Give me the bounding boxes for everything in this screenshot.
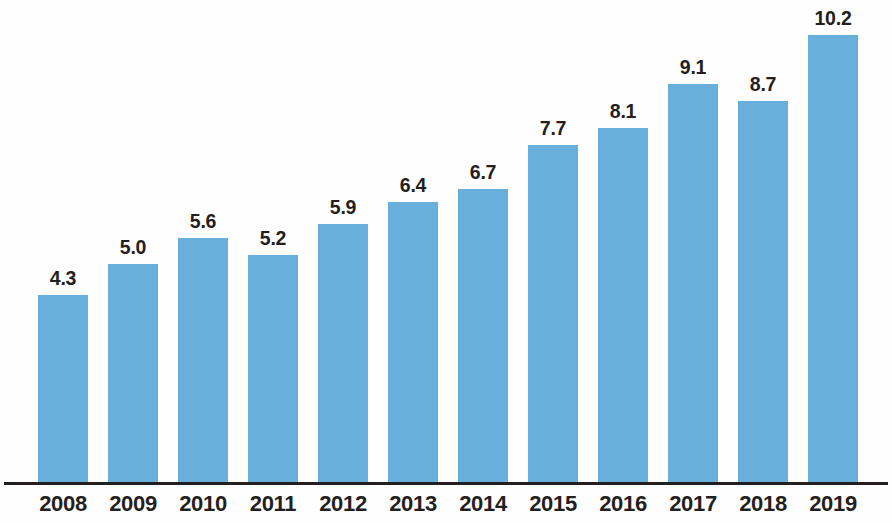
bar[interactable] (598, 128, 648, 484)
bar[interactable] (248, 255, 298, 484)
bar[interactable] (108, 264, 158, 484)
category-label: 2012 (308, 487, 378, 521)
bar-group[interactable]: 5.2 (248, 0, 298, 484)
category-label: 2017 (658, 487, 728, 521)
category-label: 2018 (728, 487, 798, 521)
bar-value-label: 6.7 (470, 163, 497, 183)
bar[interactable] (388, 202, 438, 484)
bar-chart: 4.35.05.65.25.96.46.77.78.19.18.710.2 20… (0, 0, 892, 523)
bar[interactable] (528, 145, 578, 484)
bar-group[interactable]: 4.3 (38, 0, 88, 484)
category-label: 2008 (28, 487, 98, 521)
bar-group[interactable]: 7.7 (528, 0, 578, 484)
bar-value-label: 6.4 (400, 176, 427, 196)
bar-value-label: 5.0 (120, 238, 147, 258)
bar-value-label: 9.1 (680, 58, 707, 78)
bar-value-label: 5.2 (260, 229, 287, 249)
category-label: 2010 (168, 487, 238, 521)
bar[interactable] (38, 295, 88, 484)
x-axis-line (4, 482, 888, 485)
bar-group[interactable]: 8.7 (738, 0, 788, 484)
bar[interactable] (458, 189, 508, 484)
bar-group[interactable]: 6.7 (458, 0, 508, 484)
category-axis: 2008200920102011201220132014201520162017… (0, 487, 892, 523)
bar-group[interactable]: 9.1 (668, 0, 718, 484)
bar-value-label: 5.6 (190, 212, 217, 232)
bar-group[interactable]: 5.9 (318, 0, 368, 484)
bar-group[interactable]: 5.0 (108, 0, 158, 484)
bar-group[interactable]: 10.2 (808, 0, 858, 484)
bar-group[interactable]: 6.4 (388, 0, 438, 484)
category-label: 2014 (448, 487, 518, 521)
bar-value-label: 4.3 (50, 269, 77, 289)
bar[interactable] (318, 224, 368, 484)
bar-group[interactable]: 5.6 (178, 0, 228, 484)
bar-value-label: 5.9 (330, 198, 357, 218)
bar-value-label: 7.7 (540, 119, 567, 139)
bar-value-label: 8.7 (750, 75, 777, 95)
bar[interactable] (808, 35, 858, 484)
bar[interactable] (178, 238, 228, 484)
category-label: 2011 (238, 487, 308, 521)
bar[interactable] (738, 101, 788, 484)
plot-area: 4.35.05.65.25.96.46.77.78.19.18.710.2 (0, 0, 892, 484)
category-label: 2009 (98, 487, 168, 521)
category-label: 2015 (518, 487, 588, 521)
category-label: 2016 (588, 487, 658, 521)
bar-value-label: 10.2 (814, 9, 851, 29)
bar-value-label: 8.1 (610, 102, 637, 122)
category-label: 2019 (798, 487, 868, 521)
bar[interactable] (668, 84, 718, 484)
bar-group[interactable]: 8.1 (598, 0, 648, 484)
category-label: 2013 (378, 487, 448, 521)
